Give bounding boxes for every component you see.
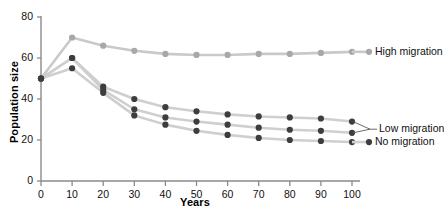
data-point	[131, 48, 137, 54]
x-tick-label: 0	[28, 188, 54, 200]
data-point	[193, 128, 199, 134]
data-point	[256, 125, 262, 131]
x-tick-label: 60	[215, 188, 241, 200]
x-tick-label: 40	[152, 188, 178, 200]
data-point	[225, 122, 231, 128]
data-point	[318, 128, 324, 134]
data-point	[69, 55, 75, 61]
data-point	[131, 106, 137, 112]
data-point	[100, 43, 106, 49]
data-point	[131, 96, 137, 102]
data-point	[193, 52, 199, 58]
legend-dot-none	[366, 139, 372, 145]
legend-label-low-migration: Low migration	[379, 122, 444, 134]
x-tick-label: 100	[339, 188, 365, 200]
data-point	[162, 114, 168, 120]
data-point	[193, 108, 199, 114]
legend-label-high-migration: High migration	[375, 45, 443, 57]
data-point	[38, 75, 44, 81]
data-point	[225, 52, 231, 58]
data-point	[162, 51, 168, 57]
data-point	[100, 90, 106, 96]
x-tick-label: 50	[184, 188, 210, 200]
y-tick-label: 0	[7, 174, 33, 186]
data-point	[349, 118, 355, 124]
x-tick-label: 20	[90, 188, 116, 200]
y-tick-label: 80	[7, 10, 33, 22]
data-point	[131, 112, 137, 118]
x-tick-label: 30	[121, 188, 147, 200]
data-point	[162, 104, 168, 110]
data-point	[287, 51, 293, 57]
y-tick-label: 60	[7, 51, 33, 63]
legend-label-no-migration: No migration	[375, 135, 435, 147]
y-tick-label: 40	[7, 92, 33, 104]
data-point	[256, 135, 262, 141]
y-tick-label: 20	[7, 133, 33, 145]
x-tick-label: 10	[59, 188, 85, 200]
data-point	[256, 113, 262, 119]
data-point	[69, 65, 75, 71]
data-point	[69, 34, 75, 40]
data-point	[193, 118, 199, 124]
data-point	[318, 138, 324, 144]
data-point	[225, 132, 231, 138]
data-point	[318, 50, 324, 56]
x-tick-label: 70	[246, 188, 272, 200]
legend-leader-low	[353, 122, 370, 133]
data-point	[318, 115, 324, 121]
x-tick-label: 80	[277, 188, 303, 200]
data-point	[287, 114, 293, 120]
data-point	[225, 111, 231, 117]
legend-dot-high	[366, 49, 372, 55]
x-tick-label: 90	[308, 188, 334, 200]
data-point	[256, 51, 262, 57]
data-point	[162, 122, 168, 128]
data-point	[287, 137, 293, 143]
data-point	[287, 127, 293, 133]
